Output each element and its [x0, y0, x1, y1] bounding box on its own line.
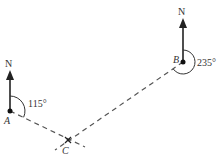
point-label-b: B — [173, 54, 179, 65]
point-a — [8, 109, 13, 114]
line-b-to-c — [55, 62, 183, 150]
north-arrow-b — [179, 18, 187, 62]
point-b — [181, 60, 186, 65]
angle-arc-a — [10, 96, 25, 117]
bearing-label-b: 235° — [197, 57, 216, 68]
point-label-c: C — [62, 145, 69, 156]
north-label-b: N — [178, 6, 185, 17]
north-label-a: N — [5, 58, 12, 69]
bearing-diagram: N N 115° 235° A B C — [0, 0, 222, 157]
north-arrow-a — [6, 70, 14, 111]
bearing-label-a: 115° — [28, 98, 47, 109]
point-label-a: A — [3, 115, 11, 126]
line-a-to-c — [10, 111, 85, 147]
